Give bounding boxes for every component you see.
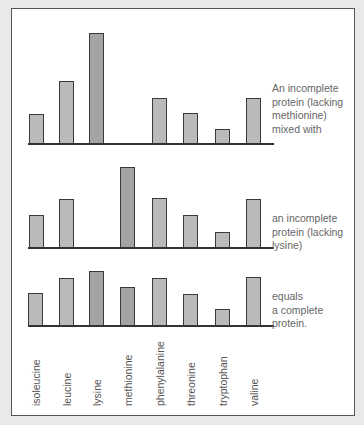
- baseline: [28, 325, 274, 327]
- label-lysine: lysine: [91, 379, 103, 406]
- caption-panel3: equals a complete protein.: [272, 290, 323, 331]
- panel-complete-protein: equals a complete protein.: [12, 9, 354, 339]
- label-valine: valine: [248, 379, 260, 406]
- label-leucine: leucine: [61, 373, 73, 406]
- bar-lysine: [89, 271, 104, 326]
- label-tryptophan: tryptophan: [217, 356, 229, 406]
- bar-threonine: [183, 294, 198, 326]
- bar-leucine: [59, 278, 74, 326]
- label-threonine: threonine: [185, 362, 197, 406]
- bar-valine: [246, 277, 261, 326]
- label-phenylalanine: phenylalanine: [154, 341, 166, 406]
- bar-isoleucine: [28, 293, 43, 326]
- bar-tryptophan: [215, 309, 230, 326]
- label-methionine: methionine: [122, 355, 134, 406]
- label-isoleucine: isoleucine: [30, 359, 42, 406]
- bar-methionine: [120, 287, 135, 326]
- figure-frame: An incomplete protein (lacking methionin…: [11, 8, 355, 416]
- bar-phenylalanine: [152, 278, 167, 326]
